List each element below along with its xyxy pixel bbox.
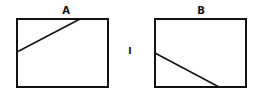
panel-b-label: B (191, 5, 211, 16)
panel-a-box (17, 19, 108, 87)
panel-a-label: A (56, 5, 76, 16)
separator-symbol: I (120, 46, 140, 56)
panel-b-line (155, 53, 219, 87)
panel-a-line (17, 19, 80, 52)
